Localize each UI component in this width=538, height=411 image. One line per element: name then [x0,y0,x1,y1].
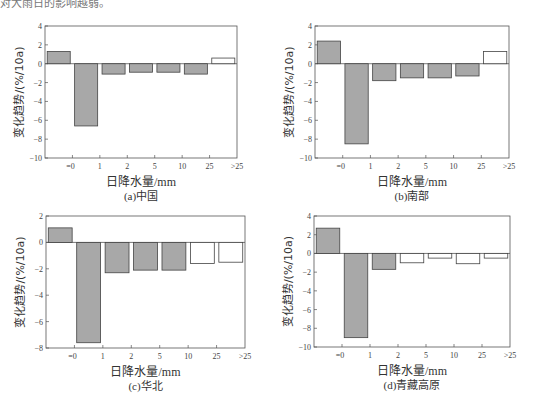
x-tick-label: 5 [424,351,428,360]
chart-panel-tibetan-plateau: 420−2−4−6−8−10=01251025>25变化趋势/(%/10a)日降… [0,0,538,411]
chart-caption: (d)青藏高原 [314,376,510,392]
x-tick-label: 2 [396,351,400,360]
y-tick-label: 0 [307,249,311,258]
y-axis-label: 变化趋势/(%/10a) [281,236,295,327]
x-tick-label: 1 [368,351,372,360]
bar-gt25 [484,253,508,258]
bar-5 [400,253,424,262]
plot-frame [314,216,510,347]
x-tick-label: 25 [478,351,486,360]
bar-chart-tibetan-plateau: 420−2−4−6−8−10=01251025>25变化趋势/(%/10a) [0,0,538,411]
y-tick-label: −8 [302,324,311,333]
bar-2 [372,253,396,269]
y-tick-label: 4 [307,212,311,221]
y-tick-label: −4 [302,287,311,296]
y-tick-label: −10 [298,343,311,352]
bar-1 [344,253,368,337]
bar-25 [456,253,480,263]
x-tick-label: >25 [504,351,517,360]
y-tick-label: −2 [302,268,311,277]
y-tick-label: 2 [307,231,311,240]
x-tick-label: 10 [450,351,458,360]
bar-eq0 [316,228,340,253]
y-tick-label: −6 [302,306,311,315]
bar-10 [428,253,452,258]
x-tick-label: =0 [336,351,345,360]
